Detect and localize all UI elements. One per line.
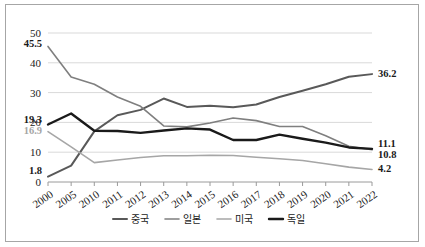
series-line-중국[interactable]	[48, 74, 372, 177]
legend-label-미국[interactable]: 미국	[235, 214, 253, 225]
legend-label-일본[interactable]: 일본	[183, 214, 201, 225]
y-axis-tick-label: 50	[30, 27, 42, 39]
data-label-11.1: 11.1	[378, 138, 396, 149]
series-group	[48, 46, 372, 176]
x-axis-tick-label: 2015	[192, 188, 217, 211]
x-axis-tick-label: 2019	[285, 188, 310, 211]
data-label-10.8: 10.8	[378, 149, 396, 160]
x-axis-tick-label: 2017	[239, 188, 264, 211]
x-axis-tick-label: 2010	[77, 188, 102, 211]
x-axis-tick-label: 2000	[30, 188, 55, 211]
x-axis-group: 2000200520102011201220132014201520162017…	[30, 182, 379, 210]
data-label-4.2: 4.2	[378, 163, 391, 174]
x-axis-tick-label: 2016	[215, 188, 240, 211]
x-axis-tick-label: 2021	[331, 188, 356, 210]
data-label-45.5: 45.5	[24, 38, 42, 49]
y-axis-tick-label: 10	[30, 146, 42, 158]
chart-container: 0102030405020002005201020112012201320142…	[0, 0, 425, 247]
x-axis-tick-label: 2012	[123, 188, 148, 210]
x-axis-tick-label: 2011	[100, 188, 125, 210]
series-line-미국[interactable]	[48, 132, 372, 170]
x-axis-tick-label: 2022	[354, 188, 379, 210]
y-axis-tick-label: 40	[30, 57, 42, 69]
series-line-일본[interactable]	[48, 46, 372, 149]
x-axis-tick-label: 2014	[169, 188, 194, 211]
data-label-16.9: 16.9	[24, 125, 42, 136]
series-line-독일[interactable]	[48, 113, 372, 148]
x-axis-tick-label: 2020	[308, 188, 333, 211]
x-axis-tick-label: 2018	[262, 188, 287, 211]
chart-legend: 중국일본미국독일	[113, 214, 305, 225]
x-axis-tick-label: 2005	[53, 188, 78, 211]
y-axis-tick-label: 0	[36, 176, 42, 188]
legend-label-독일[interactable]: 독일	[287, 214, 305, 225]
y-axis-tick-label: 30	[30, 87, 42, 99]
line-chart-plot: 0102030405020002005201020112012201320142…	[0, 0, 425, 247]
data-label-36.2: 36.2	[378, 68, 396, 79]
x-axis-tick-label: 2013	[146, 188, 171, 211]
data-label-1.8: 1.8	[29, 165, 42, 176]
legend-label-중국[interactable]: 중국	[131, 214, 149, 225]
